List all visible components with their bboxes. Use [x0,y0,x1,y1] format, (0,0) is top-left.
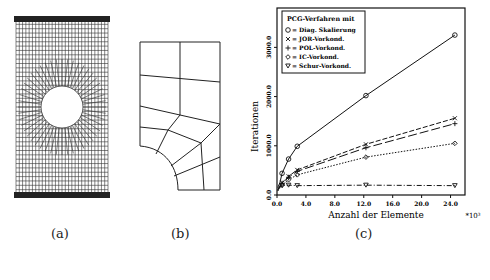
series-2 [278,121,458,190]
svg-text:Anzahl der Elemente: Anzahl der Elemente [327,210,424,220]
svg-text:1000.0: 1000.0 [265,134,272,157]
panel-b-coarse-mesh [138,40,224,202]
svg-text:PCG-Verfahren mit: PCG-Verfahren mit [287,15,354,23]
caption-c: (c) [355,226,372,241]
svg-text:= JOR-Vorkond.: = JOR-Vorkond. [292,35,344,43]
svg-text:*10³: *10³ [465,212,480,220]
svg-text:0.0: 0.0 [265,190,272,200]
iterations-line-chart: 0.04.08.012.016.020.024.00.01000.02000.0… [250,0,490,220]
svg-text:= IC-Vorkond.: = IC-Vorkond. [292,53,339,60]
svg-text:16.0: 16.0 [385,200,400,207]
coarse-mesh-figure [138,40,224,202]
caption-b: (b) [171,226,189,241]
series-4 [278,183,457,188]
svg-text:= Schur-Vorkond.: = Schur-Vorkond. [292,62,351,69]
series-1 [278,116,457,190]
caption-a: (a) [51,226,69,241]
svg-text:20.0: 20.0 [414,200,429,207]
svg-text:24.0: 24.0 [443,200,458,207]
panel-c-chart: 0.04.08.012.016.020.024.00.01000.02000.0… [250,0,490,220]
chart-legend: PCG-Verfahren mit= Diag. Skalierung= JOR… [282,11,365,73]
svg-text:12.0: 12.0 [356,200,371,207]
svg-text:Iterationen: Iterationen [250,101,260,152]
svg-text:= Diag. Skalierung: = Diag. Skalierung [292,26,356,34]
svg-text:4.0: 4.0 [301,200,311,207]
svg-text:8.0: 8.0 [330,200,340,207]
svg-text:0.0: 0.0 [272,200,282,207]
svg-text:2000.0: 2000.0 [265,85,272,108]
svg-text:= POL-Vorkond.: = POL-Vorkond. [292,44,345,51]
svg-text:3000.0: 3000.0 [265,36,272,59]
fine-mesh-figure [14,14,110,200]
panel-a-fine-mesh [14,14,110,200]
